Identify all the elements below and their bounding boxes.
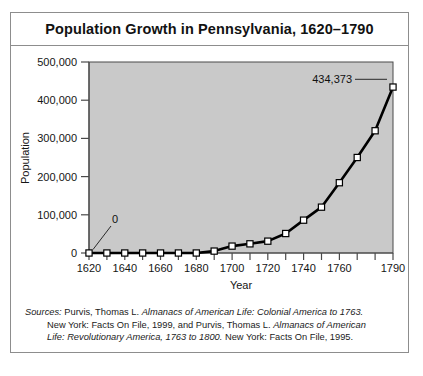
zero-annotation-label: 0 (112, 213, 118, 225)
data-point-marker (229, 243, 235, 249)
y-tick-label: 200,000 (37, 171, 77, 183)
chart-title-bar: Population Growth in Pennsylvania, 1620–… (11, 13, 408, 46)
max-annotation-label: 434,373 (312, 73, 352, 85)
source-note-line-2: New York: Facts On File, 1999, and Purvi… (25, 319, 394, 332)
data-point-marker (336, 180, 342, 186)
source-note-line2-a: New York: Facts On File, 1999, and Purvi… (47, 320, 273, 330)
population-line-chart: 0 100,000 200,000 300,000 400,000 500,00… (11, 46, 408, 303)
source-note-line-1: Sources: Purvis, Thomas L. Almanacs of A… (25, 306, 394, 319)
data-point-marker (211, 248, 217, 254)
source-note-label: Sources: (25, 307, 62, 317)
x-tick-label: 1720 (256, 262, 280, 274)
data-point-marker (86, 250, 92, 256)
data-point-marker (390, 84, 396, 90)
page-title: Population Growth in Pennsylvania, 1620–… (45, 21, 373, 37)
data-point-marker (283, 230, 289, 236)
x-tick-label: 1660 (148, 262, 172, 274)
x-tick-label: 1740 (291, 262, 315, 274)
y-axis-ticks (81, 62, 89, 253)
y-tick-label: 400,000 (37, 94, 77, 106)
data-point-marker (354, 154, 360, 160)
source-note-line2-italic: Almanacs of American (273, 320, 366, 330)
x-tick-label: 1700 (220, 262, 244, 274)
y-tick-label: 300,000 (37, 132, 77, 144)
data-point-marker (265, 238, 271, 244)
data-point-marker (175, 250, 181, 256)
source-note-line1-rest: Purvis, Thomas L. (62, 307, 142, 317)
source-note-line3-rest: New York: Facts On File, 1995. (222, 332, 353, 342)
y-tick-label: 0 (71, 247, 77, 259)
y-tick-label: 500,000 (37, 56, 77, 68)
x-axis-tick-labels: 1620 1640 1660 1680 1700 1720 1740 1760 … (77, 262, 405, 274)
y-tick-label: 100,000 (37, 209, 77, 221)
y-axis-title: Population (19, 132, 31, 184)
data-point-marker (193, 250, 199, 256)
data-point-marker (104, 250, 110, 256)
source-note-line1-italic: Almanacs of American Life: Colonial Amer… (142, 307, 364, 317)
chart-figure: Population Growth in Pennsylvania, 1620–… (10, 12, 409, 353)
plot-background (89, 62, 393, 253)
x-tick-label: 1620 (77, 262, 101, 274)
data-point-marker (300, 217, 306, 223)
y-axis-tick-labels: 0 100,000 200,000 300,000 400,000 500,00… (37, 56, 77, 259)
data-point-marker (157, 250, 163, 256)
x-tick-label: 1640 (113, 262, 137, 274)
source-note-line-3: Life: Revolutionary America, 1763 to 180… (25, 331, 394, 344)
x-tick-label: 1790 (381, 262, 405, 274)
data-point-marker (247, 241, 253, 247)
data-point-marker (372, 128, 378, 134)
data-point-marker (122, 250, 128, 256)
data-point-marker (140, 250, 146, 256)
plot-area-wrapper: 0 100,000 200,000 300,000 400,000 500,00… (11, 46, 408, 303)
x-axis-title: Year (230, 279, 253, 291)
source-note-line3-italic: Life: Revolutionary America, 1763 to 180… (47, 332, 222, 342)
source-note: Sources: Purvis, Thomas L. Almanacs of A… (11, 304, 408, 344)
x-tick-label: 1680 (184, 262, 208, 274)
x-tick-label: 1760 (327, 262, 351, 274)
data-point-marker (318, 204, 324, 210)
